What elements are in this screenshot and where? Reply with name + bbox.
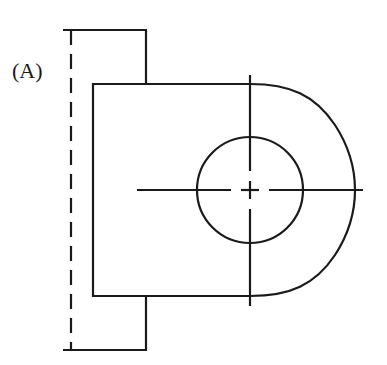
technical-drawing <box>0 0 387 365</box>
side-view-top-outline <box>63 30 146 84</box>
side-view-bottom-outline <box>63 296 146 350</box>
